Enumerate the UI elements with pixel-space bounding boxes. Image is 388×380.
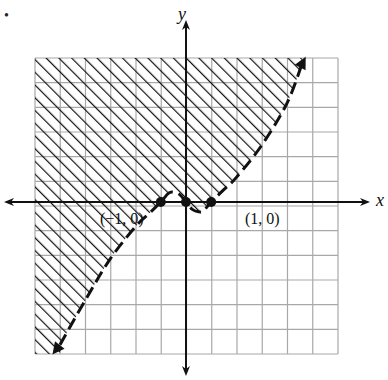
point-label-neg1: (−1, 0) (100, 210, 144, 228)
point-label-pos1: (1, 0) (245, 210, 280, 228)
inequality-graph (0, 0, 388, 380)
y-axis-label: y (178, 4, 186, 25)
x-axis-label: x (376, 190, 384, 211)
